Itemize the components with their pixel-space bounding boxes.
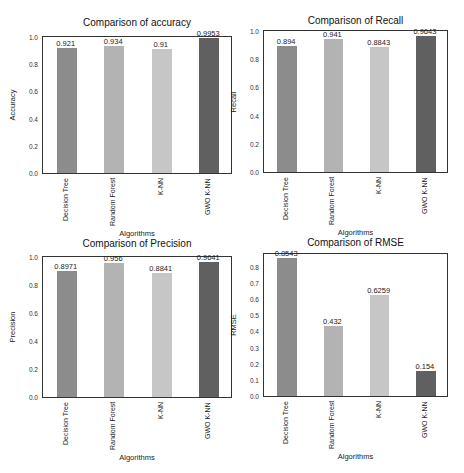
bar-random-forest [324,39,343,172]
bar-k-nn [370,295,389,396]
chart-title: Comparison of Precision [83,238,192,249]
y-axis-label: Precision [8,312,17,343]
plot-area [263,253,448,397]
y-tick-label: 0.4 [239,112,259,119]
y-tick-label: 0.2 [239,360,259,367]
x-tick-label: K-NN [157,178,164,195]
y-tick-label: 0.6 [18,310,38,317]
plot-area [42,256,232,398]
x-axis-label: Algorithms [119,229,154,238]
y-tick-label: 1.0 [239,28,259,35]
bar-value-label: 0.6259 [367,286,390,295]
y-axis-label: Accuracy [8,90,17,121]
x-axis-label: Algorithms [338,452,373,461]
bar-value-label: 0.9953 [197,29,220,38]
y-tick-label: 0.3 [239,344,259,351]
x-tick-label: Random Forest [328,177,335,225]
bar-value-label: 0.956 [104,254,123,263]
bar-value-label: 0.8841 [149,264,172,273]
bar-value-label: 0.154 [415,362,434,371]
y-tick-label: 0.6 [18,88,38,95]
y-tick-label: 0.8 [239,56,259,63]
bar-value-label: 0.894 [277,37,296,46]
y-tick-label: 0.8 [239,263,259,270]
bar-value-label: 0.8543 [275,249,298,258]
y-tick-label: 0.2 [18,142,38,149]
bar-value-label: 0.8843 [367,38,390,47]
y-tick-label: 0.4 [18,115,38,122]
x-tick-label: Random Forest [109,402,116,450]
bar-value-label: 0.91 [153,40,168,49]
bar-gwo-k-nn [199,38,219,173]
bar-value-label: 0.8971 [54,262,77,271]
bar-value-label: 0.432 [323,317,342,326]
chart-title: Comparison of Recall [308,15,404,26]
y-axis-label: Recall [229,91,238,112]
plot-area [42,36,232,174]
x-tick-label: GWO K-NN [421,177,428,214]
y-tick-label: 0.0 [18,170,38,177]
bar-k-nn [152,49,172,173]
y-tick-label: 0.4 [18,338,38,345]
chart-title: Comparison of accuracy [83,17,191,28]
bar-decision-tree [277,258,296,396]
x-tick-label: Decision Tree [282,177,289,220]
bar-value-label: 0.9643 [413,27,436,36]
bar-value-label: 0.941 [323,30,342,39]
y-tick-label: 0.7 [239,280,259,287]
bar-random-forest [104,263,124,397]
bar-gwo-k-nn [199,262,219,397]
y-tick-label: 0.8 [18,282,38,289]
bar-decision-tree [277,46,296,172]
x-axis-label: Algorithms [338,228,373,237]
y-tick-label: 0.0 [239,169,259,176]
y-axis-label: RMSE [229,314,238,336]
bar-decision-tree [57,271,77,397]
y-tick-label: 0.0 [239,393,259,400]
y-tick-label: 0.1 [239,376,259,383]
bar-k-nn [152,273,172,397]
bar-gwo-k-nn [416,36,435,172]
y-tick-label: 0.5 [239,312,259,319]
x-tick-label: GWO K-NN [421,401,428,438]
bar-gwo-k-nn [416,371,435,396]
y-tick-label: 0.2 [239,140,259,147]
x-tick-label: K-NN [375,401,382,418]
bar-value-label: 0.934 [104,37,123,46]
bar-random-forest [324,326,343,396]
x-tick-label: Decision Tree [62,178,69,221]
bar-decision-tree [57,48,77,173]
bar-value-label: 0.9641 [197,253,220,262]
x-tick-label: Random Forest [328,401,335,449]
plot-area [263,30,448,173]
x-tick-label: K-NN [157,402,164,419]
x-tick-label: GWO K-NN [204,402,211,439]
bar-random-forest [104,46,124,173]
y-tick-label: 0.6 [239,84,259,91]
y-tick-label: 0.8 [18,61,38,68]
x-tick-label: K-NN [375,177,382,194]
x-tick-label: Decision Tree [282,401,289,444]
y-tick-label: 0.2 [18,366,38,373]
x-tick-label: Random Forest [109,178,116,226]
y-tick-label: 0.4 [239,328,259,335]
y-tick-label: 0.0 [18,394,38,401]
x-axis-label: Algorithms [119,453,154,462]
x-tick-label: Decision Tree [62,402,69,445]
y-tick-label: 1.0 [18,254,38,261]
x-tick-label: GWO K-NN [204,178,211,215]
y-tick-label: 1.0 [18,34,38,41]
bar-k-nn [370,47,389,172]
y-tick-label: 0.6 [239,296,259,303]
chart-title: Comparison of RMSE [307,237,404,248]
bar-value-label: 0.921 [56,39,75,48]
